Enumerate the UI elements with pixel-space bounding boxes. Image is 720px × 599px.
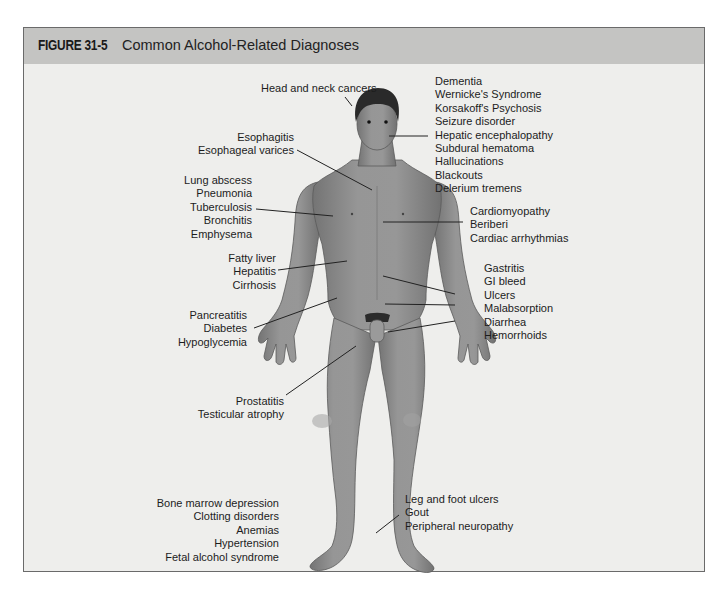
- label-group-pancreas: Pancreatitis Diabetes Hypoglycemia: [178, 309, 247, 349]
- label-group-esophagus: Esophagitis Esophageal varices: [198, 131, 294, 158]
- label-group-lungs: Lung abscess Pneumonia Tuberculosis Bron…: [184, 174, 252, 241]
- label-group-brain: Dementia Wernicke's Syndrome Korsakoff's…: [435, 75, 553, 196]
- label-group-blood: Bone marrow depression Clotting disorder…: [157, 497, 279, 564]
- label-head-neck: Head and neck cancers: [261, 82, 377, 95]
- label-group-reproductive: Prostatitis Testicular atrophy: [198, 395, 284, 422]
- label-group-heart: Cardiomyopathy Beriberi Cardiac arrhythm…: [470, 205, 568, 245]
- label-group-gi: Gastritis GI bleed Ulcers Malabsorption …: [484, 262, 553, 342]
- label-group-legs: Leg and foot ulcers Gout Peripheral neur…: [405, 493, 513, 533]
- label-group-liver: Fatty liver Hepatitis Cirrhosis: [228, 252, 276, 292]
